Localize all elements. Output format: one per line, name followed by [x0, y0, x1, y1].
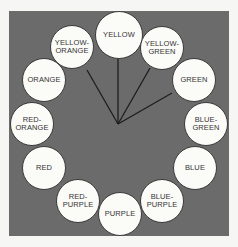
color-label-yellow: YELLOW — [103, 31, 135, 39]
color-circle-blue: BLUE — [173, 146, 217, 190]
connector-line-yellow-green — [118, 68, 150, 124]
color-label-blue-green: BLUE- GREEN — [192, 116, 219, 132]
connector-line-green — [118, 93, 172, 124]
color-circle-red: RED — [22, 146, 66, 190]
color-circle-red-purple: RED- PURPLE — [56, 179, 100, 223]
connector-line-yellow-orange — [87, 70, 118, 124]
color-label-purple: PURPLE — [105, 210, 136, 218]
color-label-red-orange: RED- ORANGE — [15, 116, 48, 132]
color-label-yellow-orange: YELLOW- ORANGE — [55, 39, 89, 55]
color-circle-green: GREEN — [172, 58, 216, 102]
color-label-orange: ORANGE — [27, 76, 60, 84]
color-circle-blue-purple: BLUE- PURPLE — [140, 179, 184, 223]
color-label-yellow-green: YELLOW- GREEN — [145, 40, 179, 56]
color-label-red-purple: RED- PURPLE — [63, 193, 94, 209]
color-circle-yellow-green: YELLOW- GREEN — [140, 26, 184, 70]
color-circle-red-orange: RED- ORANGE — [10, 102, 54, 146]
color-circle-blue-green: BLUE- GREEN — [184, 102, 228, 146]
color-label-green: GREEN — [180, 76, 207, 84]
color-circle-purple: PURPLE — [98, 192, 142, 236]
color-label-blue-purple: BLUE- PURPLE — [147, 193, 178, 209]
color-circle-yellow-orange: YELLOW- ORANGE — [50, 25, 94, 69]
color-label-blue: BLUE — [185, 164, 205, 172]
color-label-red: RED — [36, 164, 52, 172]
color-circle-yellow: YELLOW — [95, 11, 143, 59]
